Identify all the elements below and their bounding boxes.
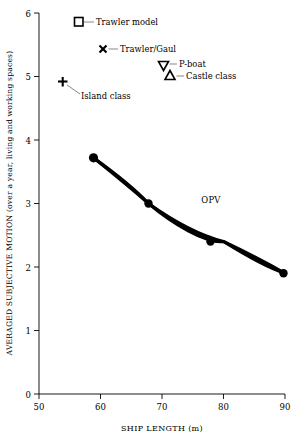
label-p-boat: P-boat (179, 59, 206, 69)
opv-annotation-label: OPV (201, 195, 221, 205)
x-tick-label-80: 80 (218, 402, 229, 412)
y-axis-ticks: 6 5 4 3 2 1 0 (26, 9, 39, 400)
y-tick-label-1: 1 (26, 326, 31, 336)
label-trawler-model: Trawler model (96, 17, 158, 27)
y-tick-label-6: 6 (26, 9, 31, 19)
opv-point-79 (206, 237, 214, 245)
marker-island-class: Island class (58, 77, 131, 101)
x-axis-title: SHIP LENGTH (m) (121, 424, 203, 433)
open-up-triangle-icon (165, 71, 175, 80)
x-axis-ticks: 50 60 70 80 90 (34, 394, 291, 412)
open-down-triangle-icon (159, 62, 169, 71)
y-tick-label-4: 4 (26, 136, 31, 146)
marker-trawler-gaul: Trawler/Gaul (100, 44, 177, 54)
opv-curve (94, 158, 286, 273)
chart-svg: 6 5 4 3 2 1 0 50 60 70 80 90 (0, 0, 300, 441)
marker-trawler-model: Trawler model (75, 17, 159, 27)
x-tick-label-90: 90 (280, 402, 291, 412)
opv-point-60 (89, 153, 98, 162)
y-tick-label-5: 5 (26, 72, 31, 82)
label-castle-class: Castle class (186, 71, 236, 81)
open-square-icon (75, 18, 84, 27)
x-tick-label-70: 70 (157, 402, 168, 412)
y-tick-label-0: 0 (26, 390, 31, 400)
opv-point-90 (279, 269, 287, 277)
axes-group (39, 13, 285, 394)
y-tick-label-3: 3 (26, 199, 31, 209)
label-trawler-gaul: Trawler/Gaul (120, 44, 176, 54)
x-tick-label-60: 60 (95, 402, 106, 412)
label-island-class: Island class (81, 91, 131, 101)
y-tick-label-2: 2 (26, 263, 31, 273)
leader-line-island-class (67, 85, 80, 94)
chart-figure: 6 5 4 3 2 1 0 50 60 70 80 90 (0, 0, 300, 441)
series-opv (89, 153, 288, 277)
marker-castle-class: Castle class (165, 71, 236, 82)
opv-curve-smooth (94, 158, 286, 273)
marker-p-boat: P-boat (159, 59, 207, 71)
x-tick-label-50: 50 (34, 402, 45, 412)
opv-point-69 (144, 199, 152, 207)
y-axis-title: AVERAGED SUBJECTIVE MOTION (over a year,… (5, 51, 14, 357)
